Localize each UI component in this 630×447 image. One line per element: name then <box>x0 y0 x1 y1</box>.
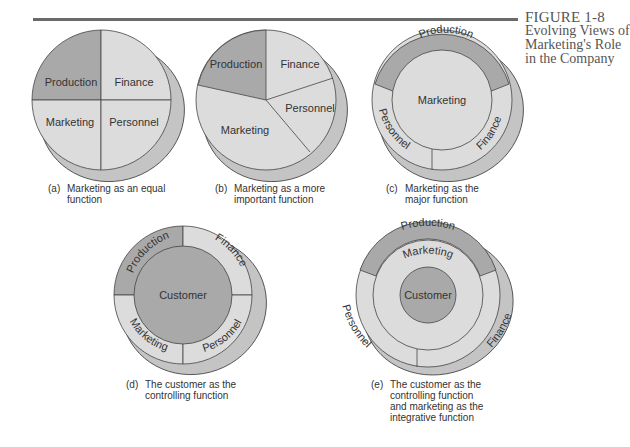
segment-production: Production <box>45 76 98 88</box>
segment-personnel: Personnel <box>109 116 159 128</box>
caption-b: (b) Marketing as a more important functi… <box>215 183 345 205</box>
segment-marketing: Marketing <box>221 124 269 136</box>
segment-marketing: Marketing <box>46 116 94 128</box>
center-customer: Customer <box>159 289 207 301</box>
segment-finance: Finance <box>280 58 319 70</box>
diagram-b-more-important-function: Production Finance Personnel Marketing <box>183 24 367 202</box>
caption-d: (d) The customer as the controlling func… <box>126 379 246 401</box>
segment-personnel: Personnel <box>285 102 335 114</box>
diagrams-canvas: Production Finance Marketing Personnel P… <box>0 0 630 447</box>
caption-c: (c) Marketing as the major function <box>386 183 496 205</box>
caption-a: (a) Marketing as an equal function <box>48 183 168 205</box>
center-customer: Customer <box>404 289 452 301</box>
segment-production: Production <box>210 58 263 70</box>
center-marketing: Marketing <box>418 94 466 106</box>
diagram-e-customer-and-marketing-integrative: Customer Marketing Production Finance Pe… <box>340 216 532 396</box>
diagram-a-equal-function: Production Finance Marketing Personnel <box>20 24 204 202</box>
diagram-d-customer-controlling: Customer Production Finance Marketing Pe… <box>102 217 286 395</box>
diagram-c-major-function: Marketing Production Finance Personnel <box>359 23 543 202</box>
segment-finance: Finance <box>114 76 153 88</box>
caption-e: (e) The customer as the controlling func… <box>371 379 491 423</box>
